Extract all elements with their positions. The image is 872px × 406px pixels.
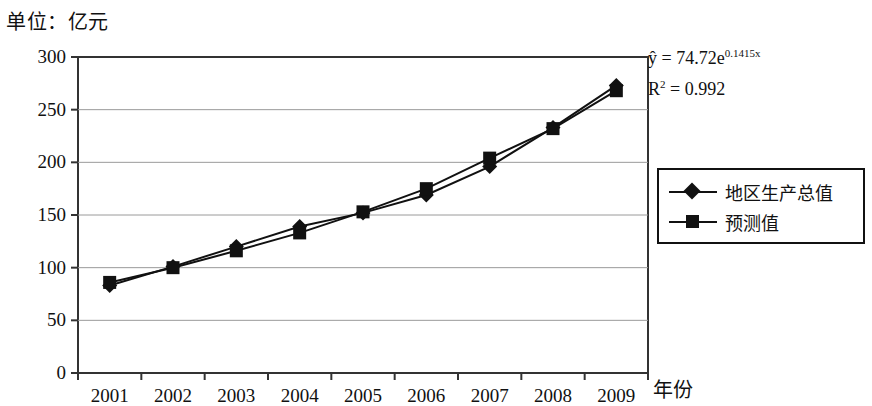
regression-equation: ŷ = 74.72e0.1415x (648, 40, 760, 71)
y-axis-label: 50 (14, 309, 66, 331)
x-axis-label: 2007 (471, 385, 509, 406)
data-point-square (483, 152, 496, 165)
diamond-marker-icon (669, 183, 717, 201)
x-axis-title: 年份 (653, 374, 693, 403)
r-squared-symbol: R (648, 79, 660, 99)
legend-item-actual[interactable]: 地区生产总值 (669, 177, 863, 207)
legend-label-predicted: 预测值 (725, 209, 779, 235)
legend-item-predicted[interactable]: 预测值 (669, 207, 863, 237)
data-point-square (293, 226, 306, 239)
x-axis-label: 2004 (281, 385, 319, 406)
y-axis-label: 100 (14, 257, 66, 279)
data-point-square (420, 182, 433, 195)
x-axis-label: 2009 (597, 385, 635, 406)
x-axis-label: 2003 (217, 385, 255, 406)
x-axis-label: 2005 (344, 385, 382, 406)
equation-exponent: 0.1415x (725, 47, 761, 59)
y-axis-label: 150 (14, 204, 66, 226)
data-point-square (357, 205, 370, 218)
data-point-square (167, 261, 180, 274)
y-axis-label: 250 (14, 99, 66, 121)
data-point-square (547, 122, 560, 135)
x-axis-label: 2002 (154, 385, 192, 406)
x-axis-label: 2006 (407, 385, 445, 406)
data-point-square (230, 244, 243, 257)
legend-label-actual: 地区生产总值 (725, 179, 833, 205)
unit-note: 单位：亿元 (6, 6, 109, 35)
r-squared-number: = 0.992 (666, 79, 726, 99)
chart-legend: 地区生产总值 预测值 (657, 168, 865, 244)
data-point-square (610, 84, 623, 97)
regression-annotation: ŷ = 74.72e0.1415x R2 = 0.992 (648, 40, 760, 102)
x-axis-label: 2008 (534, 385, 572, 406)
y-axis-label: 0 (14, 362, 66, 384)
y-axis-label: 300 (14, 46, 66, 68)
y-axis-label: 200 (14, 151, 66, 173)
x-axis-label: 2001 (91, 385, 129, 406)
data-point-square (103, 276, 116, 289)
equation-base: ŷ = 74.72e (648, 48, 725, 68)
chart-figure: 单位：亿元 ŷ = 74.72e0.1415x R2 = 0.992 地区生产总… (0, 0, 872, 406)
r-squared-value: R2 = 0.992 (648, 71, 760, 102)
square-marker-icon (669, 213, 717, 231)
